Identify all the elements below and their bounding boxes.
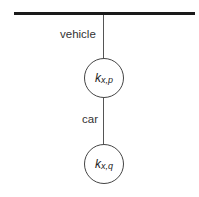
edge-label-vehicle: vehicle bbox=[60, 28, 96, 40]
node-kxq: kx,q bbox=[84, 144, 124, 184]
edge-label-car: car bbox=[82, 113, 98, 125]
edge-line-car bbox=[103, 98, 104, 144]
edge-line-vehicle bbox=[103, 15, 104, 58]
root-bar bbox=[14, 12, 195, 15]
node-kxp-sub: x,p bbox=[101, 75, 113, 85]
node-kxp: kx,p bbox=[84, 58, 124, 98]
node-kxq-sub: x,q bbox=[101, 161, 113, 171]
